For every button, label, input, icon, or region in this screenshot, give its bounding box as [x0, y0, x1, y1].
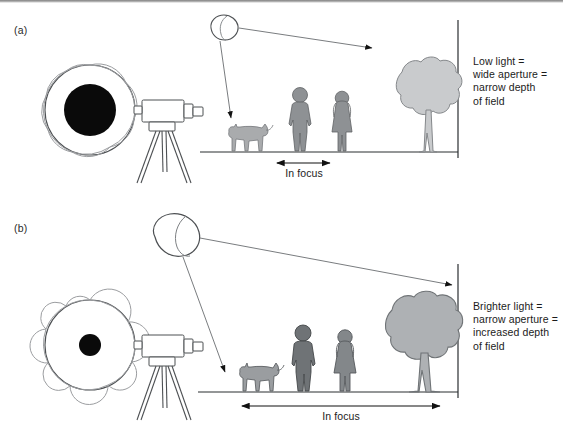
figure-root: (a): [0, 0, 563, 443]
subject-tree-b: [385, 291, 462, 392]
subject-woman-b: [334, 330, 356, 391]
caption-b: Brighter light = narrow aperture = incre…: [473, 300, 561, 353]
panel-b-graphics: [0, 0, 563, 443]
focus-label-b: In focus: [295, 410, 387, 422]
aperture-narrow-diagram: [30, 289, 150, 404]
light-ray-to-dog-b: [183, 257, 225, 372]
light-ray-to-wall-b: [200, 238, 452, 285]
subject-man-b: [292, 325, 315, 391]
subject-dog-b: [240, 363, 284, 391]
light-source-large-b: [153, 214, 199, 257]
camera-on-tripod-b: [134, 335, 203, 420]
